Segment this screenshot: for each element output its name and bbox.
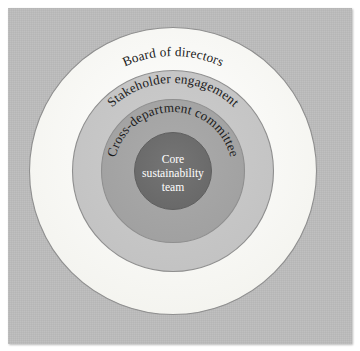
screenshot-canvas: Board of directors Stakeholder engagemen… — [0, 0, 360, 351]
center-label-line-1: Core — [162, 153, 185, 166]
concentric-circle-diagram: Board of directors Stakeholder engagemen… — [0, 0, 360, 351]
center-label-line-2: sustainability — [142, 167, 204, 180]
center-label-line-3: team — [162, 181, 185, 194]
